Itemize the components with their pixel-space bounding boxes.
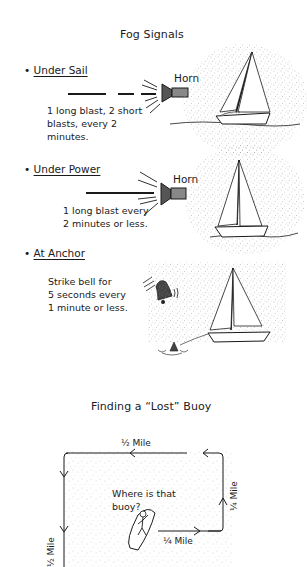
speech-text: Where is that buoy? xyxy=(112,487,176,513)
leg-label-left: ½ Mile xyxy=(46,537,56,567)
search-pattern-diagram xyxy=(0,0,307,567)
leg-label-bottom: ¼ Mile xyxy=(163,536,193,546)
leg-label-top: ½ Mile xyxy=(121,438,151,448)
leg-label-right: ¼ Mile xyxy=(229,481,239,511)
